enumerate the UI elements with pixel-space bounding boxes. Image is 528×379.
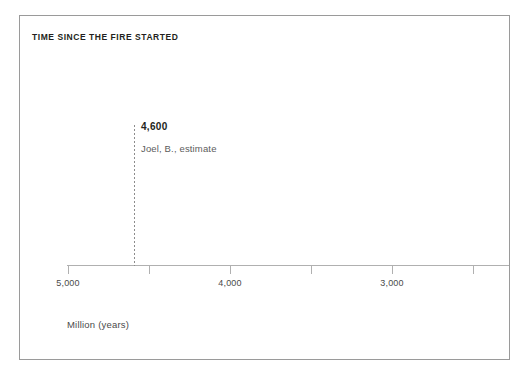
x-axis-tick-4000 — [230, 266, 231, 274]
screenshot-root: TIME SINCE THE FIRE STARTED 5,000 4,000 … — [0, 0, 528, 379]
x-axis-tick-label-5000: 5,000 — [56, 278, 80, 288]
figure-card: TIME SINCE THE FIRE STARTED 5,000 4,000 … — [19, 15, 510, 360]
x-axis-tick-label-4000: 4,000 — [218, 278, 242, 288]
annotation-labels: 4,600 Joel, B., estimate — [141, 120, 321, 155]
x-axis-tick-2500 — [473, 266, 474, 274]
annotation-value-label: 4,600 — [141, 120, 321, 134]
annotation-marker-line — [134, 125, 135, 266]
plot-area: 5,000 4,000 3,000 Million (years) 4,600 … — [20, 16, 509, 359]
annotation-source-label: Joel, B., estimate — [141, 142, 321, 155]
x-axis-caption: Million (years) — [67, 319, 129, 330]
x-axis-tick-5000 — [68, 266, 69, 274]
x-axis-tick-4500 — [149, 266, 150, 274]
x-axis-tick-3000 — [392, 266, 393, 274]
x-axis-tick-3500 — [311, 266, 312, 274]
x-axis-tick-label-3000: 3,000 — [380, 278, 404, 288]
